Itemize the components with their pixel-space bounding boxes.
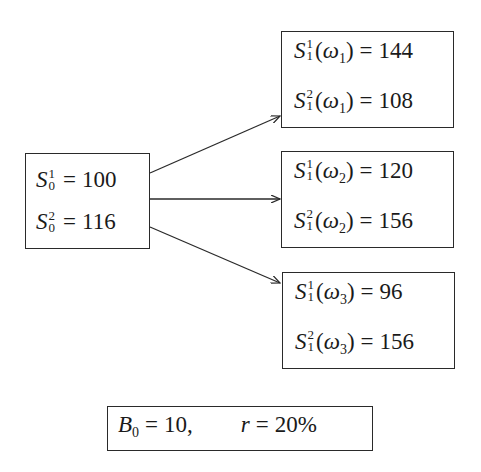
- state-index: 1: [339, 51, 346, 66]
- initial-price-asset1: S10=100: [36, 159, 149, 201]
- indices: 11: [307, 158, 314, 182]
- equals: =: [360, 88, 373, 113]
- bond-index: 0: [132, 425, 139, 440]
- state-symbol: ω: [323, 158, 339, 183]
- equals: =: [63, 209, 76, 234]
- arrow-to-omega1: [150, 116, 280, 173]
- value: 108: [379, 88, 414, 113]
- value: 100: [82, 167, 117, 192]
- value: 96: [380, 279, 403, 304]
- sub: 1: [307, 100, 314, 112]
- indices: 21: [307, 208, 314, 232]
- state-symbol: ω: [324, 329, 340, 354]
- rparen: ): [347, 329, 355, 354]
- rate-symbol: r: [241, 412, 250, 437]
- state-index: 2: [339, 221, 346, 236]
- state-symbol: ω: [323, 88, 339, 113]
- value: 156: [380, 329, 415, 354]
- symbol: S: [294, 158, 306, 183]
- symbol: S: [36, 209, 48, 234]
- equals: =: [63, 167, 76, 192]
- equals: =: [360, 208, 373, 233]
- indices: 21: [308, 329, 315, 353]
- outcome-box-omega3: S11(ω3)=96 S21(ω3)=156: [282, 272, 455, 369]
- equals: =: [361, 329, 374, 354]
- rparen: ): [346, 88, 354, 113]
- outcome-omega1-asset2: S21(ω1)=108: [294, 80, 453, 130]
- state-symbol: ω: [323, 38, 339, 63]
- symbol: S: [295, 279, 307, 304]
- rparen: ): [346, 38, 354, 63]
- state-index: 3: [340, 292, 347, 307]
- symbol: S: [294, 88, 306, 113]
- outcome-omega2-asset2: S21(ω2)=156: [294, 200, 453, 250]
- sub: 1: [308, 291, 315, 303]
- sub: 1: [308, 341, 315, 353]
- sub: 0: [49, 222, 56, 234]
- symbol: S: [294, 208, 306, 233]
- value: 116: [82, 209, 116, 234]
- symbol: S: [295, 329, 307, 354]
- bond-value: 10,: [164, 412, 193, 437]
- lparen: (: [315, 38, 323, 63]
- rparen: ): [347, 279, 355, 304]
- equals: =: [361, 279, 374, 304]
- symbol: S: [294, 38, 306, 63]
- state-index: 1: [339, 101, 346, 116]
- outcome-box-omega2: S11(ω2)=120 S21(ω2)=156: [281, 151, 454, 248]
- initial-price-asset2: S20=116: [36, 201, 149, 243]
- indices: 20: [49, 210, 56, 234]
- value: 144: [379, 38, 414, 63]
- sub: 0: [49, 180, 56, 192]
- sub: 1: [307, 220, 314, 232]
- outcome-omega3-asset1: S11(ω3)=96: [295, 271, 454, 321]
- arrow-to-omega3: [150, 227, 280, 283]
- equals: =: [360, 38, 373, 63]
- lparen: (: [315, 158, 323, 183]
- lparen: (: [315, 88, 323, 113]
- indices: 11: [307, 38, 314, 62]
- value: 156: [379, 208, 414, 233]
- sub: 1: [307, 50, 314, 62]
- rparen: ): [346, 208, 354, 233]
- rate-value: 20%: [275, 412, 317, 437]
- outcome-omega3-asset2: S21(ω3)=156: [295, 321, 454, 371]
- indices: 11: [308, 279, 315, 303]
- state-symbol: ω: [324, 279, 340, 304]
- indices: 21: [307, 88, 314, 112]
- lparen: (: [316, 279, 324, 304]
- initial-prices-box: S10=100 S20=116: [25, 153, 150, 249]
- parameters-box: B0=10,r=20%: [107, 406, 373, 451]
- sub: 1: [307, 170, 314, 182]
- rparen: ): [346, 158, 354, 183]
- parameters-line: B0=10,r=20%: [118, 404, 372, 454]
- lparen: (: [315, 208, 323, 233]
- state-index: 2: [339, 171, 346, 186]
- equals: =: [256, 412, 269, 437]
- outcome-omega1-asset1: S11(ω1)=144: [294, 30, 453, 80]
- lparen: (: [316, 329, 324, 354]
- equals: =: [145, 412, 158, 437]
- indices: 10: [49, 168, 56, 192]
- equals: =: [360, 158, 373, 183]
- bond-symbol: B: [118, 412, 132, 437]
- symbol: S: [36, 167, 48, 192]
- state-symbol: ω: [323, 208, 339, 233]
- state-index: 3: [340, 342, 347, 357]
- value: 120: [379, 158, 414, 183]
- outcome-box-omega1: S11(ω1)=144 S21(ω1)=108: [281, 31, 454, 128]
- outcome-omega2-asset1: S11(ω2)=120: [294, 150, 453, 200]
